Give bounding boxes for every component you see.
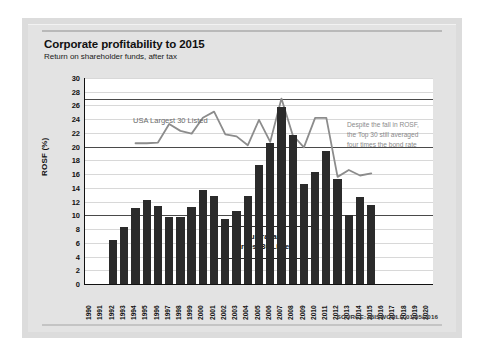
- bar: [367, 205, 375, 284]
- bar: [154, 206, 162, 284]
- y-tick-label: 4: [76, 252, 80, 261]
- bar: [255, 165, 263, 284]
- bar: [345, 215, 353, 284]
- x-tick-label: 1998: [175, 305, 182, 320]
- bar: [277, 107, 285, 284]
- bar: [165, 217, 173, 284]
- x-tick-label: 2010: [310, 305, 317, 320]
- y-axis-title: ROSF (%): [40, 138, 49, 177]
- y-tick-label: 12: [72, 197, 80, 206]
- y-tick-label: 28: [72, 87, 80, 96]
- bottom-divider: [42, 324, 442, 326]
- x-tick-label: 1992: [108, 305, 115, 320]
- callout-annotation: Despite the fall in ROSF, the Top 30 sti…: [347, 120, 439, 151]
- chart-card: Corporate profitability to 2015 Return o…: [22, 18, 462, 338]
- x-tick-label: 2009: [299, 305, 306, 320]
- y-tick-label: 14: [72, 183, 80, 192]
- x-tick-label: 2004: [242, 305, 249, 320]
- bar: [221, 219, 229, 284]
- y-tick-label: 26: [72, 101, 80, 110]
- bar: [322, 151, 330, 284]
- y-tick-label: 0: [76, 280, 80, 289]
- bar: [266, 143, 274, 284]
- x-tick-label: 1996: [153, 305, 160, 320]
- x-tick-label: 1995: [141, 305, 148, 320]
- bar: [232, 211, 240, 284]
- y-tick-label: 22: [72, 128, 80, 137]
- y-axis-ticks: 024681012141618202224262830: [58, 78, 80, 284]
- x-tick-label: 2001: [209, 305, 216, 320]
- x-tick-label: 2011: [321, 306, 328, 320]
- chart-subtitle: Return on shareholder funds, after tax: [44, 52, 177, 61]
- x-tick-label: 1994: [130, 305, 137, 320]
- usa-series-label: USA Largest 30 Listed: [133, 116, 208, 125]
- plot-canvas: USA Largest 30 Listed Despite the fall i…: [84, 78, 433, 285]
- x-tick-label: 1990: [85, 305, 92, 320]
- y-tick-label: 2: [76, 266, 80, 275]
- y-tick-label: 16: [72, 170, 80, 179]
- bar: [333, 179, 341, 284]
- x-tick-label: 1991: [96, 305, 103, 320]
- y-tick-label: 6: [76, 238, 80, 247]
- x-tick-label: 2005: [254, 305, 261, 320]
- source-note: SOURCE: IBISWORLD 01/05/2016: [337, 313, 438, 320]
- bar: [199, 190, 207, 284]
- x-tick-label: 1997: [164, 305, 171, 320]
- x-tick-label: 2002: [220, 305, 227, 320]
- x-tick-label: 1999: [186, 305, 193, 320]
- x-tick-label: 1993: [119, 305, 126, 320]
- y-tick-label: 10: [72, 211, 80, 220]
- x-tick-label: 2003: [231, 305, 238, 320]
- chart-card-inner: Corporate profitability to 2015 Return o…: [28, 24, 456, 332]
- chart-title: Corporate profitability to 2015: [44, 38, 204, 50]
- y-tick-label: 30: [72, 74, 80, 83]
- top-divider: [42, 30, 442, 32]
- bar: [131, 208, 139, 284]
- screenshot-root: Corporate profitability to 2015 Return o…: [0, 0, 484, 352]
- callout-line-1: Despite the fall in ROSF,: [347, 120, 439, 130]
- x-tick-label: 2008: [287, 305, 294, 320]
- y-tick-label: 20: [72, 142, 80, 151]
- bar: [120, 227, 128, 284]
- bar: [300, 184, 308, 284]
- bar: [311, 172, 319, 284]
- bar: [176, 217, 184, 284]
- x-tick-label: 2007: [276, 305, 283, 320]
- x-tick-label: 2000: [197, 305, 204, 320]
- plot-area-wrapper: ROSF (%) 024681012141618202224262830 USA…: [44, 68, 448, 320]
- y-tick-label: 24: [72, 115, 80, 124]
- y-tick-label: 18: [72, 156, 80, 165]
- bar: [109, 240, 117, 284]
- bar: [244, 196, 252, 284]
- callout-line-2: the Top 30 still averaged: [347, 130, 439, 140]
- bar: [356, 197, 364, 284]
- callout-line-3: four times the bond rate: [347, 140, 439, 150]
- y-tick-label: 8: [76, 225, 80, 234]
- bar: [187, 207, 195, 284]
- bar: [210, 196, 218, 284]
- bar: [143, 200, 151, 284]
- x-tick-label: 2006: [265, 305, 272, 320]
- bar: [289, 135, 297, 284]
